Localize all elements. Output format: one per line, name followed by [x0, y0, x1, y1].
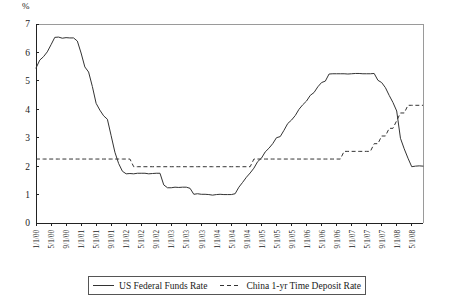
x-tick-label: 5/1/06: [319, 230, 327, 249]
x-tick-label: 1/1/00: [33, 230, 41, 249]
legend-item-china-1yr-time-deposit-rate: China 1-yr Time Deposit Rate: [220, 281, 361, 291]
y-tick-label: 5: [25, 76, 30, 86]
y-tick-label: 7: [25, 19, 30, 29]
x-tick-label: 9/1/06: [334, 230, 342, 249]
x-tick-label: 5/1/05: [274, 230, 282, 249]
x-tick-label: 9/1/04: [244, 230, 252, 249]
x-tick-label: 5/1/00: [48, 230, 56, 249]
series-line-us-federal-funds-rate: [36, 37, 423, 195]
legend-line-solid-icon: [93, 285, 114, 286]
x-tick-label: 1/1/07: [349, 230, 357, 249]
chart-figure: % 01234567 1/1/005/1/009/1/001/1/015/1/0…: [0, 0, 454, 303]
x-tick-label: 9/1/01: [108, 230, 116, 249]
x-tick-label: 1/1/08: [394, 230, 402, 249]
data-series-group: [36, 37, 423, 195]
x-tick-label: 5/1/08: [409, 230, 417, 249]
x-tick-label: 9/1/00: [63, 230, 71, 249]
x-axis-ticks: 1/1/005/1/009/1/001/1/015/1/019/1/011/1/…: [33, 223, 417, 248]
y-tick-label: 0: [25, 218, 30, 228]
legend-label: US Federal Funds Rate: [119, 281, 207, 291]
chart-legend: US Federal Funds Rate China 1-yr Time De…: [88, 276, 366, 295]
legend-item-us-federal-funds-rate: US Federal Funds Rate: [93, 281, 207, 291]
x-tick-label: 5/1/07: [364, 230, 372, 249]
plot-frame: [36, 24, 423, 223]
x-tick-label: 1/1/02: [123, 230, 131, 249]
x-tick-label: 1/1/05: [259, 230, 267, 249]
x-tick-label: 5/1/03: [183, 230, 191, 249]
y-tick-label: 1: [25, 190, 30, 200]
x-tick-label: 5/1/04: [229, 230, 237, 249]
x-tick-label: 9/1/03: [199, 230, 207, 249]
x-tick-label: 9/1/07: [379, 230, 387, 249]
x-tick-label: 1/1/03: [168, 230, 176, 249]
x-tick-label: 5/1/02: [138, 230, 146, 249]
line-chart-plot: 01234567 1/1/005/1/009/1/001/1/015/1/019…: [0, 0, 454, 303]
y-tick-label: 3: [25, 133, 30, 143]
series-line-china-1-yr-time-deposit-rate: [36, 105, 423, 166]
y-axis-ticks: 01234567: [25, 19, 39, 228]
x-tick-label: 1/1/01: [78, 230, 86, 249]
x-tick-label: 9/1/02: [153, 230, 161, 249]
y-tick-label: 6: [25, 48, 30, 58]
legend-label: China 1-yr Time Deposit Rate: [246, 281, 361, 291]
y-tick-label: 2: [25, 162, 30, 172]
x-tick-label: 5/1/01: [93, 230, 101, 249]
x-tick-label: 1/1/04: [214, 230, 222, 249]
legend-line-dashed-icon: [220, 285, 241, 286]
y-tick-label: 4: [25, 105, 30, 115]
x-tick-label: 9/1/05: [289, 230, 297, 249]
x-tick-label: 1/1/06: [304, 230, 312, 249]
